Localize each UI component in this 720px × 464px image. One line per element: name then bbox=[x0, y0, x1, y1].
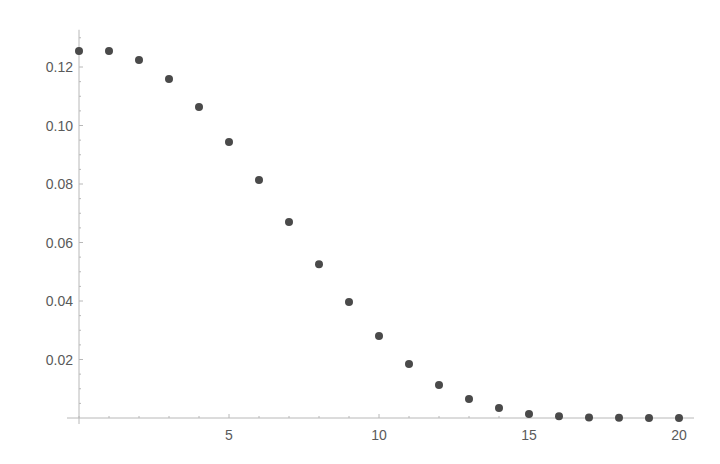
data-point bbox=[345, 298, 353, 306]
axes bbox=[67, 30, 694, 424]
y-tick-label: 0.12 bbox=[46, 59, 73, 75]
data-point bbox=[615, 414, 623, 422]
data-point bbox=[585, 413, 593, 421]
data-point bbox=[75, 47, 83, 55]
data-point bbox=[645, 414, 653, 422]
data-point bbox=[105, 47, 113, 55]
data-point bbox=[315, 260, 323, 268]
data-point bbox=[285, 218, 293, 226]
data-point bbox=[195, 103, 203, 111]
axis-ticks bbox=[79, 38, 679, 418]
x-tick-label: 5 bbox=[225, 427, 233, 443]
data-point bbox=[675, 414, 683, 422]
y-tick-label: 0.06 bbox=[46, 235, 73, 251]
x-tick-label: 10 bbox=[371, 427, 387, 443]
x-tick-label: 20 bbox=[671, 427, 687, 443]
data-point bbox=[465, 395, 473, 403]
y-tick-label: 0.08 bbox=[46, 176, 73, 192]
data-point bbox=[525, 410, 533, 418]
data-point bbox=[495, 404, 503, 412]
data-point bbox=[165, 75, 173, 83]
y-tick-label: 0.04 bbox=[46, 293, 73, 309]
data-point bbox=[255, 176, 263, 184]
scatter-chart: 51015200.020.040.060.080.100.12 bbox=[0, 0, 720, 464]
data-point bbox=[555, 412, 563, 420]
data-point bbox=[435, 381, 443, 389]
data-point bbox=[405, 360, 413, 368]
data-point bbox=[375, 332, 383, 340]
data-point bbox=[135, 56, 143, 64]
data-point bbox=[225, 138, 233, 146]
x-tick-label: 15 bbox=[521, 427, 537, 443]
y-tick-label: 0.02 bbox=[46, 352, 73, 368]
tick-labels: 51015200.020.040.060.080.100.12 bbox=[46, 59, 687, 443]
y-tick-label: 0.10 bbox=[46, 118, 73, 134]
data-points bbox=[75, 47, 683, 422]
